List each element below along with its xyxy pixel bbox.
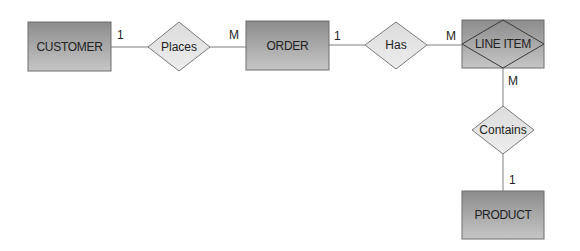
- entity-line-item-label: LINE ITEM: [475, 37, 531, 51]
- cardinality-customer-places: 1: [117, 28, 124, 42]
- entity-customer[interactable]: CUSTOMER: [28, 22, 111, 71]
- cardinality-has-lineitem: M: [446, 29, 456, 43]
- cardinality-lineitem-contains: M: [508, 74, 518, 88]
- relationship-has[interactable]: Has: [365, 22, 427, 69]
- entity-order[interactable]: ORDER: [246, 21, 329, 70]
- er-diagram: CUSTOMER Places ORDER Has LINE ITEM Cont…: [0, 0, 580, 251]
- relationship-places-label: Places: [161, 40, 197, 54]
- entity-product-label: PRODUCT: [474, 208, 532, 222]
- entity-line-item[interactable]: LINE ITEM: [462, 20, 544, 68]
- relationship-has-label: Has: [385, 38, 406, 52]
- entity-customer-label: CUSTOMER: [36, 40, 103, 54]
- cardinality-places-order: M: [229, 28, 239, 42]
- cardinality-contains-product: 1: [509, 173, 516, 187]
- cardinality-order-has: 1: [334, 29, 341, 43]
- relationship-places[interactable]: Places: [148, 22, 210, 71]
- relationship-contains-label: Contains: [479, 123, 526, 137]
- entity-product[interactable]: PRODUCT: [462, 191, 544, 239]
- relationship-contains[interactable]: Contains: [472, 106, 534, 154]
- entity-order-label: ORDER: [267, 39, 309, 53]
